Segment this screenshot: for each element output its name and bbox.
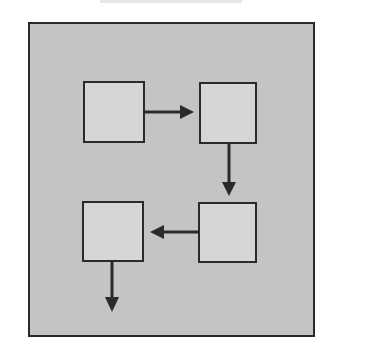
arrow-right-icon [144, 105, 194, 119]
box-1 [84, 82, 144, 142]
arrow-down-icon [222, 143, 236, 196]
flow-diagram [0, 0, 368, 363]
box-4 [83, 202, 143, 261]
arrow-down-exit-icon [105, 261, 119, 312]
box-3 [199, 203, 256, 262]
arrow-left-icon [150, 225, 199, 239]
box-2 [200, 83, 256, 143]
